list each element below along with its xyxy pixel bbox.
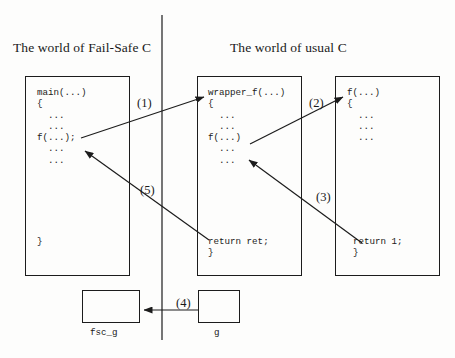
code-text-wrapper-f-top: wrapper_f(...) { ... ... f(...) ... ...: [208, 87, 285, 166]
arrow-label-4: (4): [176, 296, 191, 311]
arrow-label-2: (2): [309, 96, 324, 111]
code-text-f-bottom: return 1; }: [353, 236, 403, 259]
data-box-fsc-g-label: fsc_g: [90, 327, 118, 338]
arrow-label-1: (1): [137, 96, 152, 111]
code-text-main-bottom: }: [37, 236, 43, 247]
data-box-g-label: g: [214, 327, 220, 338]
arrow-label-5: (5): [140, 183, 155, 198]
code-text-f-top: f(...) { ... ... ...: [347, 87, 380, 143]
data-box-g: [198, 290, 240, 323]
diagram-canvas: The world of Fail-Safe C The world of us…: [0, 0, 455, 358]
data-box-fsc-g: [82, 290, 140, 323]
arrow-label-3: (3): [316, 190, 331, 205]
world-title-fail-safe-c: The world of Fail-Safe C: [13, 40, 151, 56]
code-text-main-top: main(...) { ... ... f(...); ... ...: [37, 87, 87, 166]
world-title-usual-c: The world of usual C: [230, 40, 347, 56]
code-text-wrapper-f-bottom: return ret; }: [208, 236, 269, 259]
